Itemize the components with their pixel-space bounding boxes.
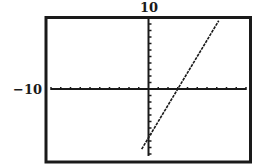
plot-series (142, 21, 219, 149)
axes (51, 19, 246, 156)
graph-window (0, 0, 255, 167)
function-line (142, 21, 219, 149)
